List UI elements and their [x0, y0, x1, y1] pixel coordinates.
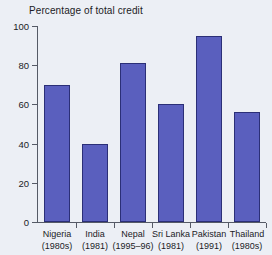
x-axis-category-label: Thailand(1980s) — [230, 228, 265, 252]
y-axis-tick-label: 0 — [24, 217, 29, 228]
category-name: Sri Lanka — [152, 228, 190, 240]
category-period: (1995–96) — [112, 240, 153, 252]
x-axis-category-label: Nigeria(1980s) — [42, 228, 73, 252]
bar — [44, 85, 70, 222]
y-axis-tick-label: 40 — [18, 138, 29, 149]
category-name: India — [82, 228, 108, 240]
y-axis-tick — [32, 26, 37, 27]
y-axis-tick — [32, 65, 37, 66]
chart-title: Percentage of total credit — [29, 5, 143, 16]
x-axis-category-label: Sri Lanka(1981) — [152, 228, 190, 252]
bar — [120, 63, 146, 222]
x-axis-category-label: Pakistan(1991) — [192, 228, 227, 252]
category-name: Thailand — [230, 228, 265, 240]
bar — [234, 112, 260, 222]
x-axis-category-label: Nepal(1995–96) — [112, 228, 153, 252]
category-period: (1980s) — [42, 240, 73, 252]
bar — [82, 144, 108, 222]
bar-chart: Percentage of total credit 020406080100 … — [0, 0, 272, 255]
x-axis-tick — [266, 223, 267, 228]
x-axis-tick — [76, 223, 77, 228]
bar — [158, 104, 184, 222]
category-name: Nigeria — [42, 228, 73, 240]
y-axis-tick-label: 100 — [13, 21, 29, 32]
y-axis-tick — [32, 144, 37, 145]
category-period: (1981) — [82, 240, 108, 252]
y-axis-tick-label: 20 — [18, 177, 29, 188]
category-period: (1991) — [192, 240, 227, 252]
bar — [196, 36, 222, 222]
category-period: (1980s) — [230, 240, 265, 252]
y-axis-tick-label: 60 — [18, 99, 29, 110]
y-axis-tick — [32, 183, 37, 184]
category-name: Nepal — [112, 228, 153, 240]
category-period: (1981) — [152, 240, 190, 252]
y-axis-tick-label: 80 — [18, 60, 29, 71]
x-axis-category-label: India(1981) — [82, 228, 108, 252]
y-axis-tick — [32, 104, 37, 105]
plot-area — [38, 26, 266, 222]
category-name: Pakistan — [192, 228, 227, 240]
y-axis-tick — [32, 222, 37, 223]
